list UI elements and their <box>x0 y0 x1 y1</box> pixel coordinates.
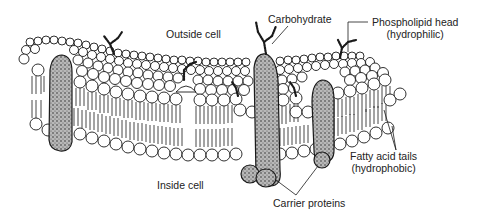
fatty-acid-tails-title: Fatty acid tails <box>350 150 417 162</box>
fatty-acid-tails-note: (hydrophobic) <box>350 162 417 174</box>
protein-center <box>254 54 280 186</box>
protein-left <box>49 55 72 151</box>
carbohydrate-label: Carbohydrate <box>268 13 332 25</box>
inside-cell-label: Inside cell <box>157 179 204 191</box>
phospholipid-head-label: Phospholipid head (hydrophilic) <box>372 16 458 40</box>
outside-cell-label: Outside cell <box>166 28 221 40</box>
phospholipid-head-title: Phospholipid head <box>372 16 458 28</box>
phospholipid-head-leader <box>348 22 368 52</box>
phospholipid-head-note: (hydrophilic) <box>372 28 458 40</box>
carrier-proteins-label: Carrier proteins <box>273 197 345 209</box>
fatty-acid-tails-label: Fatty acid tails (hydrophobic) <box>350 150 417 174</box>
protein-right <box>312 80 334 162</box>
carrier-proteins-leader <box>276 166 318 195</box>
top-surface-heads <box>19 36 391 106</box>
